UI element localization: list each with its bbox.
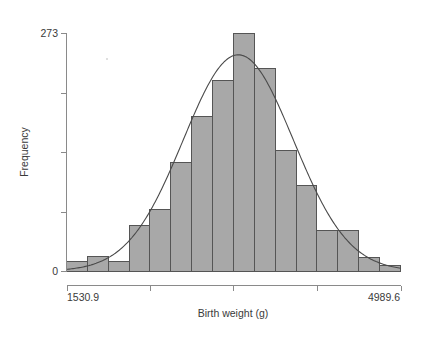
- histogram-bar: [192, 117, 213, 271]
- y-axis-max-label: 273: [40, 27, 58, 39]
- histogram-bar: [254, 69, 275, 271]
- histogram-bar: [213, 80, 234, 271]
- scan-speck: [106, 58, 108, 60]
- histogram-bar: [233, 33, 254, 271]
- x-axis-min-label: 1530.9: [67, 291, 99, 303]
- histogram-bar: [171, 163, 192, 271]
- histogram-bar: [359, 257, 380, 271]
- histogram-bar: [108, 261, 129, 271]
- histogram-figure: 273 0 1530.9 4989.6 Birth weight (g) Fre…: [0, 0, 426, 337]
- histogram-bar: [296, 186, 317, 271]
- x-axis-title: Birth weight (g): [198, 307, 269, 319]
- histogram-bar: [317, 230, 338, 271]
- histogram-bar: [87, 256, 108, 271]
- histogram-bar: [129, 226, 150, 271]
- histogram-bar: [275, 151, 296, 271]
- y-axis-min-label: 0: [52, 265, 58, 277]
- x-axis-max-label: 4989.6: [368, 291, 400, 303]
- histogram-bar: [338, 230, 359, 271]
- histogram-bar: [150, 210, 171, 271]
- y-axis-title: Frequency: [18, 126, 30, 176]
